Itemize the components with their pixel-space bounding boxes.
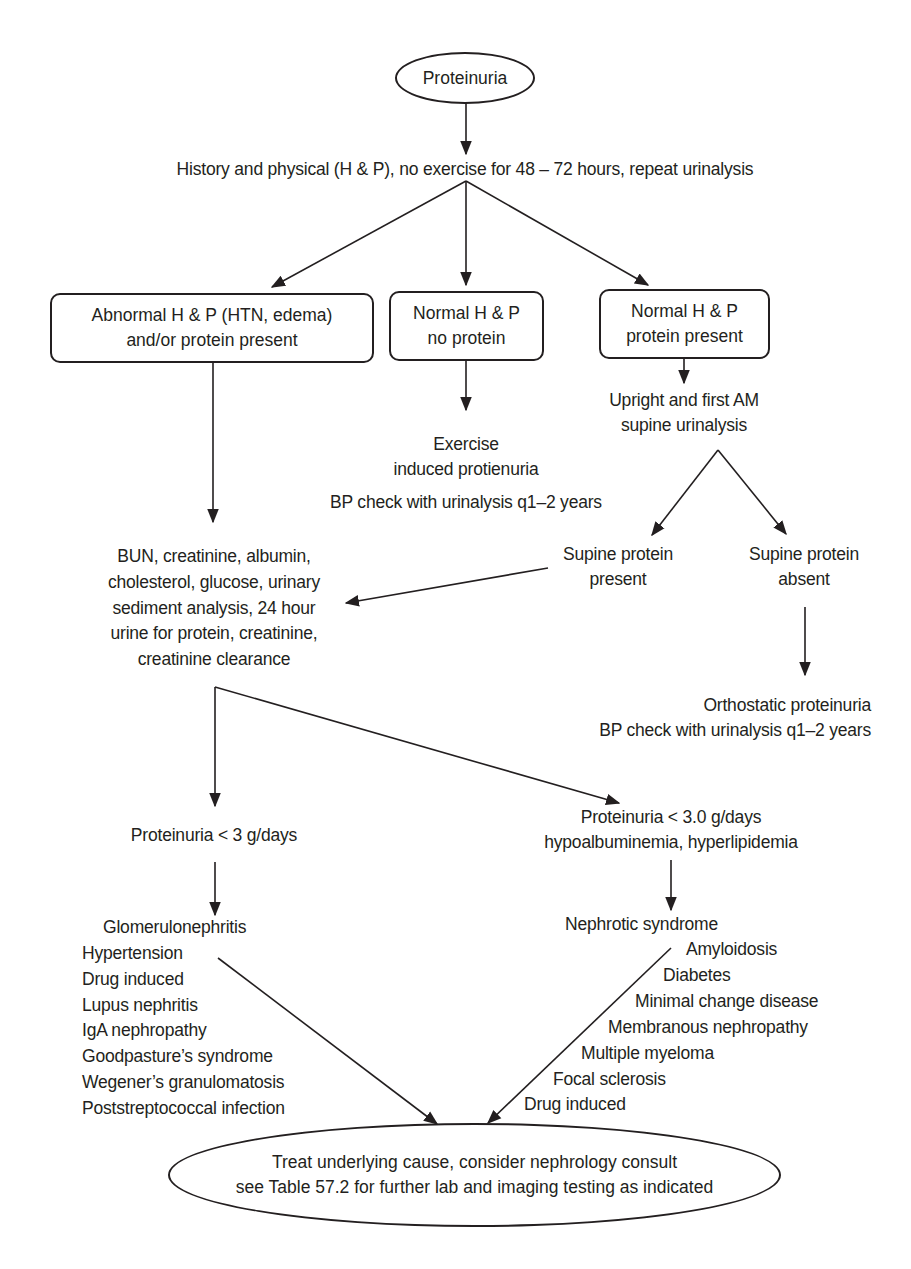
- box-abnormal-line2: and/or protein present: [126, 328, 297, 353]
- arrow-to-supine-present: [652, 450, 718, 535]
- list-item: Wegener’s granulomatosis: [82, 1070, 285, 1096]
- box-normal-no-protein-line1: Normal H & P: [413, 301, 520, 326]
- list-item: Multiple myeloma: [581, 1041, 714, 1066]
- list-item: Hypertension: [82, 941, 285, 967]
- upright-line2: supine urinalysis: [609, 413, 759, 438]
- supine-present-line2: present: [563, 567, 673, 592]
- nephrotic-header: Nephrotic syndrome: [565, 912, 718, 937]
- upright-supine-test: Upright and first AM supine urinalysis: [609, 388, 759, 438]
- proteinuria-high: Proteinuria < 3.0 g/days hypoalbuminemia…: [544, 805, 798, 855]
- box-normal-protein-line2: protein present: [626, 324, 743, 349]
- arrow-to-abnormal: [272, 181, 466, 287]
- lab-line: creatinine clearance: [108, 647, 320, 673]
- high-protein-line1: Proteinuria < 3.0 g/days: [544, 805, 798, 830]
- supine-protein-present: Supine protein present: [563, 542, 673, 592]
- supine-absent-line2: absent: [749, 567, 859, 592]
- list-item: Goodpasture’s syndrome: [82, 1044, 285, 1070]
- orthostatic-outcome: Orthostatic proteinuria BP check with ur…: [599, 693, 871, 743]
- list-item: Drug induced: [82, 967, 285, 993]
- arrow-supine-present-to-labs: [346, 568, 548, 603]
- supine-protein-absent: Supine protein absent: [749, 542, 859, 592]
- orthostatic-line2: BP check with urinalysis q1–2 years: [599, 718, 871, 743]
- lab-workup: BUN, creatinine, albumin, cholesterol, g…: [108, 544, 320, 673]
- upright-line1: Upright and first AM: [609, 388, 759, 413]
- end-node-line2: see Table 57.2 for further lab and imagi…: [236, 1175, 713, 1200]
- arrow-to-normal-protein: [466, 181, 648, 285]
- start-node-proteinuria: Proteinuria: [395, 52, 535, 104]
- list-item: Minimal change disease: [635, 989, 818, 1014]
- list-item: Poststreptococcal infection: [82, 1096, 285, 1122]
- start-node-label: Proteinuria: [423, 66, 508, 91]
- list-item: IgA nephropathy: [82, 1018, 285, 1044]
- end-node-treatment: Treat underlying cause, consider nephrol…: [168, 1123, 781, 1227]
- list-item: Amyloidosis: [686, 937, 777, 962]
- orthostatic-line1: Orthostatic proteinuria: [599, 693, 871, 718]
- list-item: Membranous nephropathy: [608, 1015, 808, 1040]
- proteinuria-flowchart: Proteinuria History and physical (H & P)…: [0, 0, 911, 1269]
- proteinuria-low: Proteinuria < 3 g/days: [131, 823, 297, 848]
- end-node-line1: Treat underlying cause, consider nephrol…: [272, 1150, 677, 1175]
- exercise-line3: BP check with urinalysis q1–2 years: [330, 490, 602, 515]
- list-item: Drug induced: [524, 1092, 626, 1117]
- list-item: Lupus nephritis: [82, 993, 285, 1019]
- box-normal-no-protein-line2: no protein: [428, 326, 506, 351]
- lab-line: cholesterol, glucose, urinary: [108, 570, 320, 596]
- box-abnormal-line1: Abnormal H & P (HTN, edema): [92, 303, 333, 328]
- supine-present-line1: Supine protein: [563, 542, 673, 567]
- glomerulonephritis-header: Glomerulonephritis: [103, 915, 246, 940]
- high-protein-line2: hypoalbuminemia, hyperlipidemia: [544, 830, 798, 855]
- list-item: Diabetes: [663, 963, 730, 988]
- exercise-line1: Exercise: [330, 432, 602, 457]
- history-physical-step: History and physical (H & P), no exercis…: [177, 157, 754, 182]
- box-normal-no-protein: Normal H & P no protein: [389, 291, 544, 361]
- lab-line: BUN, creatinine, albumin,: [108, 544, 320, 570]
- list-item: Focal sclerosis: [553, 1067, 666, 1092]
- arrow-to-high-protein: [215, 687, 619, 803]
- exercise-induced-outcome: Exercise induced protienuria BP check wi…: [330, 432, 602, 515]
- supine-absent-line1: Supine protein: [749, 542, 859, 567]
- exercise-line2: induced protienuria: [330, 457, 602, 482]
- lab-line: sediment analysis, 24 hour: [108, 596, 320, 622]
- box-normal-protein-present: Normal H & P protein present: [599, 289, 770, 359]
- box-normal-protein-line1: Normal H & P: [631, 299, 738, 324]
- arrow-to-supine-absent: [718, 450, 786, 534]
- lab-line: urine for protein, creatinine,: [108, 621, 320, 647]
- glomerular-causes-list: Hypertension Drug induced Lupus nephriti…: [82, 941, 285, 1122]
- box-abnormal-hp: Abnormal H & P (HTN, edema) and/or prote…: [50, 293, 374, 363]
